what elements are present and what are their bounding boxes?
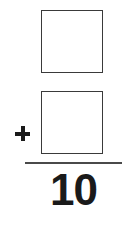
sum-value: 10 xyxy=(50,168,96,212)
plus-vertical-stroke xyxy=(21,126,25,141)
addend-2-box[interactable] xyxy=(41,91,103,154)
plus-sign-icon xyxy=(15,126,30,141)
sum-line-divider xyxy=(25,162,122,164)
addend-1-box[interactable] xyxy=(41,10,103,73)
